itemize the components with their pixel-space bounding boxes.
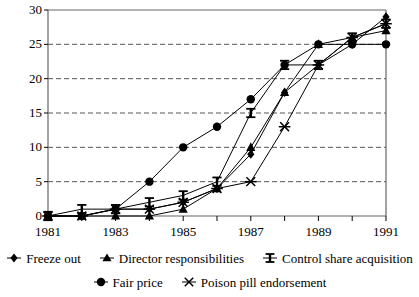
data-point-marker (280, 61, 288, 69)
legend-label: Poison pill endorsement (201, 276, 327, 289)
gridlines (48, 44, 386, 181)
data-point-marker (145, 177, 153, 185)
legend-row-secondary: Fair pricePoison pill endorsement (0, 270, 419, 294)
legend-marker (6, 250, 22, 266)
x-axis-tick-label: 1991 (361, 225, 411, 238)
chart-legend: Freeze outDirector responsibilitiesContr… (0, 246, 419, 294)
legend-marker (99, 250, 115, 266)
legend-item[interactable]: Freeze out (6, 250, 81, 266)
data-point-marker (279, 122, 291, 131)
x-axis-tick-label: 1985 (158, 225, 208, 238)
x-marker-icon (181, 274, 197, 290)
data-series-group (42, 12, 392, 220)
legend-row-primary: Freeze outDirector responsibilitiesContr… (0, 246, 419, 270)
x-axis-tick-label: 1987 (226, 225, 276, 238)
x-axis-tick-label: 1989 (293, 225, 343, 238)
legend-label: Freeze out (26, 252, 81, 265)
x-axis-tick-label: 1981 (23, 225, 73, 238)
data-point-marker (246, 109, 255, 117)
data-point-marker (213, 123, 221, 131)
legend-item[interactable]: Fair price (93, 274, 163, 290)
legend-marker (93, 274, 109, 290)
y-axis-tick-label: 20 (6, 72, 42, 85)
y-axis-tick-label: 30 (6, 3, 42, 16)
diamond-marker-icon (6, 250, 22, 266)
data-point-marker (314, 40, 322, 48)
legend-marker (262, 250, 278, 266)
legend-item[interactable]: Poison pill endorsement (181, 274, 327, 290)
data-point-marker (245, 177, 257, 186)
y-axis-tick-label: 10 (6, 140, 42, 153)
legend-item[interactable]: Control share acquisition (262, 250, 413, 266)
chart-container: 302520151050 198119831985198719891991 Fr… (0, 0, 419, 297)
legend-label: Fair price (113, 276, 163, 289)
triangle-marker-icon (99, 250, 115, 266)
legend-label: Control share acquisition (282, 252, 413, 265)
legend-label: Director responsibilities (119, 252, 244, 265)
y-axis-tick-label: 0 (6, 209, 42, 222)
data-point-marker (382, 40, 390, 48)
data-point-marker (179, 143, 187, 151)
data-point-marker (247, 95, 255, 103)
y-axis-tick-label: 15 (6, 106, 42, 119)
data-series (44, 40, 390, 220)
circle-marker-icon (93, 274, 109, 290)
ibar-marker-icon (262, 250, 278, 266)
x-axis-tick-label: 1983 (91, 225, 141, 238)
y-axis-tick-label: 25 (6, 37, 42, 50)
legend-item[interactable]: Director responsibilities (99, 250, 244, 266)
y-axis-tick-label: 5 (6, 175, 42, 188)
data-point-marker (246, 142, 255, 151)
legend-marker (181, 274, 197, 290)
